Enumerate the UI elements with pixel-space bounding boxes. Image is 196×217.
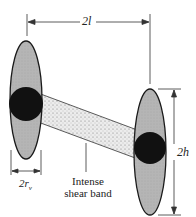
shear-band: [38, 93, 148, 162]
right-void: [134, 132, 166, 164]
label-shear-band: Intense shear band: [62, 176, 114, 199]
label-2h: 2h: [177, 146, 189, 158]
label-shear-band-line2: shear band: [62, 188, 114, 199]
label-2rv-main: 2r: [19, 177, 29, 189]
left-void: [9, 87, 43, 121]
label-2l: 2l: [82, 15, 91, 27]
label-shear-band-line1: Intense: [62, 176, 114, 187]
label-2rv: 2rv: [19, 178, 32, 192]
label-2rv-sub: v: [29, 184, 32, 192]
